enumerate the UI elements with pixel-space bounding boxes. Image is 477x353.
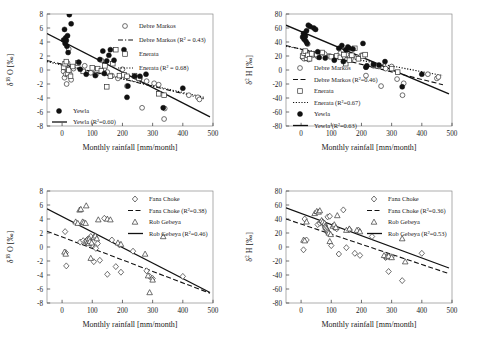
data-point [419,72,424,77]
x-tick-label: 100 [87,307,98,315]
y-tick-label: -20 [272,258,282,266]
x-tick-label: 200 [117,130,128,138]
data-point [57,109,62,114]
legend-item: Debre Markos (R² = 0.43) [118,36,206,44]
data-point [161,105,166,110]
x-tick-label: 500 [208,130,219,138]
x-tick-label: 300 [386,307,397,315]
data-point [144,79,149,84]
x-tick-label: 100 [326,130,337,138]
y-tick-label: 0 [39,244,43,252]
legend-item: Debre Markos [298,64,352,71]
y-tick-label: 60 [275,202,283,210]
x-tick-label: 300 [386,130,397,138]
y-tick-label: 2 [39,53,43,61]
data-point [364,63,369,68]
data-point [357,252,362,258]
legend-label: Debre Markos (R² = 0.43) [139,36,206,44]
data-point [162,117,167,122]
x-tick-label: 300 [147,307,158,315]
legend: YewlaYewla (R²=0.60) [52,107,116,126]
data-point [97,257,102,263]
data-point [162,93,167,98]
data-point [132,74,137,79]
x-tick-label: 200 [117,307,128,315]
data-point [379,84,384,89]
y-tick-label: 0 [278,67,282,75]
data-point [186,93,191,98]
data-point [156,92,161,97]
y-tick-label: 6 [39,25,43,33]
data-point [90,66,95,71]
data-point [64,38,69,43]
data-point [117,73,122,78]
panel-top-right-svg: 0100200300400500-80-60-40-20020406080Mon… [239,0,477,176]
x-tick-label: 100 [87,130,98,138]
x-tick-label: 0 [60,130,64,138]
legend-item: Debre Markos (R²=0.46) [293,76,378,84]
panel-bottom-right: 0100200300400500-80-60-40-20020406080Mon… [239,177,477,353]
data-point [124,95,129,100]
data-point [103,64,108,69]
data-point [67,12,72,17]
regression-line [286,219,449,274]
data-point [341,207,346,213]
legend: Debre MarkosDebre Markos (R² = 0.43)Ener… [118,22,206,72]
data-point [108,47,113,52]
y-tick-label: -4 [37,95,43,103]
y-tick-label: 20 [275,53,283,61]
legend-item: Rob Gebeya (R²=0.46) [128,230,208,238]
regression-line [47,231,210,293]
x-tick-label: 200 [356,130,367,138]
x-tick-label: 500 [447,130,458,138]
data-point [137,74,142,79]
data-point [97,57,102,62]
data-point [64,82,69,87]
y-tick-label: 4 [39,216,43,224]
regression-lines [286,208,449,274]
data-point [383,66,388,71]
y-tick-label: 4 [39,39,43,47]
legend-item: Yewla [57,107,90,114]
panel-top-left: 0100200300400500-8-6-4-202468Monthly rai… [0,0,238,176]
regression-line [286,208,449,268]
legend-label: Rob Gebeya (R²=0.53) [388,230,447,238]
y-axis-label: δ18 O [‰] [5,54,15,87]
data-point [349,53,354,58]
legend-label: Enerata (R²=0.67) [314,99,360,107]
data-point [83,203,89,208]
x-tick-label: 400 [177,307,188,315]
data-point [351,47,356,52]
legend-label: Yewla [73,107,89,114]
x-axis-label: Monthly rainfall [mm/month] [321,320,416,329]
y-tick-label: 40 [275,216,283,224]
data-point [395,70,400,75]
data-point [96,217,102,222]
data-point [327,239,333,244]
data-point [400,93,405,98]
y-tick-label: 0 [39,67,43,75]
y-tick-label: -40 [272,272,282,280]
y-tick-label: -6 [37,109,43,117]
data-point [305,41,310,46]
x-tick-label: 100 [326,307,337,315]
panel-bottom-left-svg: 0100200300400500-8-6-4-202468Monthly rai… [0,177,238,353]
x-tick-label: 0 [299,130,303,138]
data-point [371,219,377,224]
data-point [352,250,357,256]
y-tick-label: -20 [272,81,282,89]
panel-top-right: 0100200300400500-80-60-40-20020406080Mon… [239,0,477,176]
data-point [307,57,312,62]
legend-item: Fana Choke (R²=0.36) [367,207,446,215]
legend-item: Yewla (R²=0.63) [293,122,357,130]
legend-item: Rob Gebeya [132,218,181,225]
data-point [112,58,117,63]
data-point [68,74,73,79]
y-tick-label: 0 [278,244,282,252]
data-point [400,84,405,89]
data-point [347,58,352,63]
legend-label: Debre Markos (R²=0.46) [314,76,378,84]
y-tick-label: -80 [272,300,282,308]
legend-item: Yewla (R²=0.60) [52,118,116,126]
data-point [419,250,424,256]
